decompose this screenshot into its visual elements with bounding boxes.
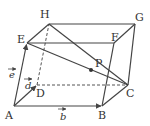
label-e: E <box>17 33 25 46</box>
label-h: H <box>40 8 50 21</box>
vector-e-text: e <box>9 69 15 80</box>
label-b: B <box>98 109 106 122</box>
label-d: D <box>36 87 45 100</box>
label-c: C <box>126 87 134 100</box>
vector-d-label: d <box>24 79 32 91</box>
vector-b-label: b <box>58 109 66 122</box>
label-p: P <box>95 57 103 70</box>
parallelepiped-diagram: A B C D E F G H P b e d <box>0 0 150 126</box>
vector-e-label: e <box>8 69 16 80</box>
vector-b-text: b <box>60 111 66 122</box>
point-p <box>89 68 93 72</box>
label-a: A <box>4 109 14 122</box>
edge-c-g <box>128 24 135 85</box>
vector-d-text: d <box>25 80 31 91</box>
label-g: G <box>135 11 144 24</box>
label-f: F <box>111 31 119 44</box>
